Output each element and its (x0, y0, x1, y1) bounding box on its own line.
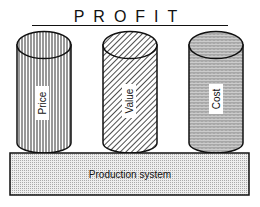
pillar-label: Price (37, 91, 48, 114)
pillar-cost: Cost (189, 32, 243, 154)
profit-diagram: PROFIT Price Value Cost Production syste… (0, 0, 260, 207)
production-system-base: Production system (10, 153, 249, 195)
pillar-price: Price (17, 32, 71, 154)
base-label: Production system (89, 169, 171, 180)
pillar-label: Value (124, 88, 135, 113)
diagram-title: PROFIT (74, 8, 187, 25)
pillar-label: Cost (211, 88, 222, 109)
pillar-value: Value (103, 32, 157, 154)
